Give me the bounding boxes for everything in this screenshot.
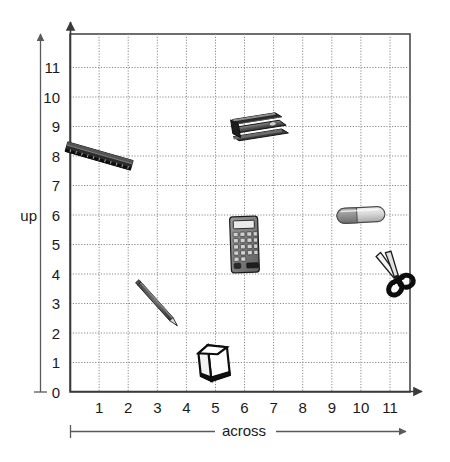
x-tick-2: 2 [124, 399, 132, 416]
y-tick-11: 11 [44, 59, 60, 76]
x-tick-6: 6 [240, 399, 248, 416]
x-tick-10: 10 [353, 399, 370, 416]
y-tick-7: 7 [52, 177, 60, 194]
x-tick-3: 3 [153, 399, 161, 416]
x-axis-title: across [222, 422, 266, 439]
y-tick-4: 4 [52, 266, 60, 283]
plot-item-rubber [198, 343, 231, 382]
calculator-icon [230, 216, 260, 273]
y-tick-1: 1 [52, 354, 60, 371]
y-tick-labels: 0 1 2 3 4 5 6 7 8 9 10 11 [43, 59, 60, 401]
eraser-icon [337, 206, 386, 223]
y-tick-6: 6 [52, 207, 60, 224]
figure-canvas: 0 1 2 3 4 5 6 7 8 9 10 11 1 2 3 4 5 6 7 … [0, 0, 450, 462]
y-tick-10: 10 [43, 89, 60, 106]
x-tick-labels: 1 2 3 4 5 6 7 8 9 10 11 [95, 399, 398, 416]
x-tick-11: 11 [382, 399, 398, 416]
x-tick-1: 1 [95, 399, 103, 416]
plot-item-eraser [337, 206, 386, 223]
x-tick-7: 7 [269, 399, 277, 416]
y-tick-2: 2 [52, 325, 60, 342]
plot-item-calculator [230, 216, 260, 273]
y-axis-title: up [20, 207, 37, 224]
y-tick-8: 8 [52, 148, 60, 165]
rubber-icon [198, 343, 231, 382]
y-tick-0: 0 [52, 384, 60, 401]
y-tick-5: 5 [52, 236, 60, 253]
y-tick-9: 9 [52, 118, 60, 135]
x-tick-8: 8 [299, 399, 307, 416]
y-tick-3: 3 [52, 295, 60, 312]
coordinate-grid-figure: 0 1 2 3 4 5 6 7 8 9 10 11 1 2 3 4 5 6 7 … [0, 0, 450, 462]
x-tick-5: 5 [211, 399, 219, 416]
x-tick-4: 4 [182, 399, 190, 416]
x-tick-9: 9 [328, 399, 336, 416]
